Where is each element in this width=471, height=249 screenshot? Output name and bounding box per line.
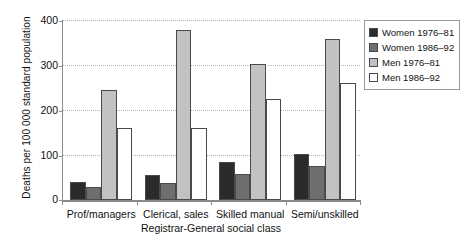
legend-label: Women 1986–92 xyxy=(382,43,454,53)
y-tick-label: 400 xyxy=(40,14,58,26)
bar xyxy=(294,154,310,200)
x-axis-title: Registrar-General social class xyxy=(62,222,360,234)
x-tick-mark xyxy=(137,201,138,205)
bar xyxy=(160,183,176,200)
bar xyxy=(219,162,235,200)
y-axis-title: Deaths per 100 000 standard population xyxy=(21,8,32,208)
plot-area: 0100200300400 Prof/managersClerical, sal… xyxy=(62,20,360,200)
y-tick-mark xyxy=(59,21,63,22)
y-tick-mark xyxy=(59,111,63,112)
bar-group xyxy=(219,20,281,200)
legend-swatch-icon xyxy=(369,28,378,37)
x-category-label: Semi/unskilled xyxy=(291,208,359,220)
x-category-label: Clerical, sales xyxy=(143,208,208,220)
bar xyxy=(325,39,341,200)
legend-item[interactable]: Men 1976–81 xyxy=(369,55,454,70)
y-tick-mark xyxy=(59,66,63,67)
bar xyxy=(145,175,161,200)
bar xyxy=(86,187,102,200)
bar xyxy=(235,174,251,200)
bar xyxy=(101,90,117,200)
y-tick-label: 300 xyxy=(40,59,58,71)
bar xyxy=(340,83,356,200)
y-tick-mark xyxy=(59,156,63,157)
bar xyxy=(309,166,325,200)
legend-swatch-icon xyxy=(369,73,378,82)
legend-label: Women 1976–81 xyxy=(382,28,454,38)
x-tick-mark xyxy=(286,201,287,205)
bar-group xyxy=(145,20,207,200)
bar xyxy=(266,99,282,200)
bar xyxy=(250,64,266,200)
legend-label: Men 1986–92 xyxy=(382,73,440,83)
legend-swatch-icon xyxy=(369,43,378,52)
x-tick-mark xyxy=(360,201,361,205)
bar xyxy=(117,128,133,200)
legend-item[interactable]: Men 1986–92 xyxy=(369,70,454,85)
legend-item[interactable]: Women 1976–81 xyxy=(369,25,454,40)
x-tick-mark xyxy=(211,201,212,205)
bar xyxy=(191,128,207,200)
bar-chart-figure: Deaths per 100 000 standard population 0… xyxy=(0,0,471,249)
x-tick-mark xyxy=(62,201,63,205)
y-tick-label: 200 xyxy=(40,104,58,116)
legend-label: Men 1976–81 xyxy=(382,58,440,68)
bar-group xyxy=(70,20,132,200)
bar-group xyxy=(294,20,356,200)
legend-swatch-icon xyxy=(369,58,378,67)
y-tick-label: 0 xyxy=(52,193,58,205)
legend-item[interactable]: Women 1986–92 xyxy=(369,40,454,55)
bar xyxy=(70,182,86,200)
bar xyxy=(176,30,192,200)
x-category-label: Prof/managers xyxy=(67,208,136,220)
y-tick-label: 100 xyxy=(40,149,58,161)
x-category-label: Skilled manual xyxy=(216,208,284,220)
legend: Women 1976–81Women 1986–92Men 1976–81Men… xyxy=(364,20,460,90)
